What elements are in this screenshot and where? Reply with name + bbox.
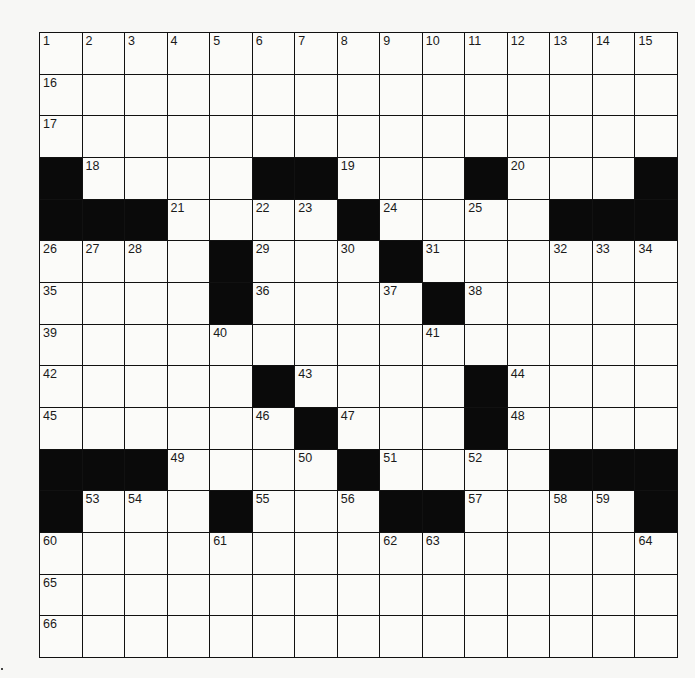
grid-cell[interactable]: 37 [380, 283, 422, 324]
grid-cell[interactable]: 35 [40, 283, 82, 324]
grid-cell[interactable] [338, 366, 380, 407]
grid-cell[interactable]: 58 [550, 491, 592, 532]
grid-cell[interactable] [83, 283, 125, 324]
grid-cell[interactable]: 46 [253, 408, 295, 449]
grid-cell[interactable] [210, 616, 252, 657]
grid-cell[interactable] [465, 325, 507, 366]
grid-cell[interactable]: 28 [125, 241, 167, 282]
grid-cell[interactable] [338, 575, 380, 616]
grid-cell[interactable] [465, 116, 507, 157]
grid-cell[interactable] [295, 616, 337, 657]
grid-cell[interactable] [423, 575, 465, 616]
grid-cell[interactable] [210, 75, 252, 116]
grid-cell[interactable] [380, 616, 422, 657]
grid-cell[interactable] [550, 408, 592, 449]
grid-cell[interactable] [593, 533, 635, 574]
grid-cell[interactable]: 30 [338, 241, 380, 282]
grid-cell[interactable] [125, 283, 167, 324]
grid-cell[interactable] [125, 366, 167, 407]
grid-cell[interactable]: 52 [465, 450, 507, 491]
grid-cell[interactable]: 53 [83, 491, 125, 532]
grid-cell[interactable] [635, 283, 677, 324]
grid-cell[interactable] [83, 575, 125, 616]
grid-cell[interactable]: 54 [125, 491, 167, 532]
grid-cell[interactable] [593, 116, 635, 157]
grid-cell[interactable] [210, 200, 252, 241]
grid-cell[interactable]: 66 [40, 616, 82, 657]
grid-cell[interactable] [550, 616, 592, 657]
grid-cell[interactable] [508, 116, 550, 157]
grid-cell[interactable]: 25 [465, 200, 507, 241]
grid-cell[interactable] [593, 616, 635, 657]
grid-cell[interactable]: 57 [465, 491, 507, 532]
grid-cell[interactable] [550, 575, 592, 616]
grid-cell[interactable]: 42 [40, 366, 82, 407]
grid-cell[interactable] [125, 408, 167, 449]
grid-cell[interactable]: 17 [40, 116, 82, 157]
grid-cell[interactable] [125, 116, 167, 157]
grid-cell[interactable]: 31 [423, 241, 465, 282]
grid-cell[interactable] [380, 366, 422, 407]
grid-cell[interactable]: 64 [635, 533, 677, 574]
grid-cell[interactable] [380, 575, 422, 616]
grid-cell[interactable]: 56 [338, 491, 380, 532]
grid-cell[interactable] [83, 366, 125, 407]
grid-cell[interactable]: 22 [253, 200, 295, 241]
grid-cell[interactable]: 27 [83, 241, 125, 282]
grid-cell[interactable] [423, 75, 465, 116]
grid-cell[interactable]: 55 [253, 491, 295, 532]
grid-cell[interactable] [168, 408, 210, 449]
grid-cell[interactable] [423, 450, 465, 491]
grid-cell[interactable]: 23 [295, 200, 337, 241]
grid-cell[interactable]: 26 [40, 241, 82, 282]
grid-cell[interactable] [380, 116, 422, 157]
grid-cell[interactable] [168, 616, 210, 657]
grid-cell[interactable] [210, 408, 252, 449]
grid-cell[interactable] [83, 616, 125, 657]
grid-cell[interactable] [550, 325, 592, 366]
grid-cell[interactable] [168, 575, 210, 616]
grid-cell[interactable] [253, 450, 295, 491]
grid-cell[interactable]: 62 [380, 533, 422, 574]
grid-cell[interactable] [253, 575, 295, 616]
grid-cell[interactable]: 21 [168, 200, 210, 241]
grid-cell[interactable]: 7 [295, 33, 337, 74]
grid-cell[interactable]: 61 [210, 533, 252, 574]
grid-cell[interactable] [295, 575, 337, 616]
grid-cell[interactable] [125, 533, 167, 574]
grid-cell[interactable] [508, 325, 550, 366]
grid-cell[interactable]: 15 [635, 33, 677, 74]
grid-cell[interactable] [635, 616, 677, 657]
grid-cell[interactable] [635, 116, 677, 157]
grid-cell[interactable]: 3 [125, 33, 167, 74]
grid-cell[interactable] [83, 408, 125, 449]
grid-cell[interactable] [550, 283, 592, 324]
grid-cell[interactable] [83, 116, 125, 157]
grid-cell[interactable] [168, 283, 210, 324]
grid-cell[interactable] [168, 75, 210, 116]
grid-cell[interactable] [295, 283, 337, 324]
grid-cell[interactable]: 47 [338, 408, 380, 449]
grid-cell[interactable] [508, 575, 550, 616]
grid-cell[interactable]: 4 [168, 33, 210, 74]
grid-cell[interactable] [210, 158, 252, 199]
grid-cell[interactable] [83, 75, 125, 116]
grid-cell[interactable]: 36 [253, 283, 295, 324]
grid-cell[interactable]: 33 [593, 241, 635, 282]
grid-cell[interactable]: 39 [40, 325, 82, 366]
grid-cell[interactable] [508, 491, 550, 532]
grid-cell[interactable] [593, 408, 635, 449]
grid-cell[interactable]: 34 [635, 241, 677, 282]
grid-cell[interactable] [125, 575, 167, 616]
grid-cell[interactable] [423, 200, 465, 241]
grid-cell[interactable] [593, 75, 635, 116]
grid-cell[interactable]: 63 [423, 533, 465, 574]
grid-cell[interactable] [125, 325, 167, 366]
grid-cell[interactable] [210, 450, 252, 491]
grid-cell[interactable] [295, 241, 337, 282]
grid-cell[interactable] [338, 75, 380, 116]
grid-cell[interactable]: 50 [295, 450, 337, 491]
grid-cell[interactable] [635, 325, 677, 366]
grid-cell[interactable] [380, 75, 422, 116]
grid-cell[interactable]: 13 [550, 33, 592, 74]
